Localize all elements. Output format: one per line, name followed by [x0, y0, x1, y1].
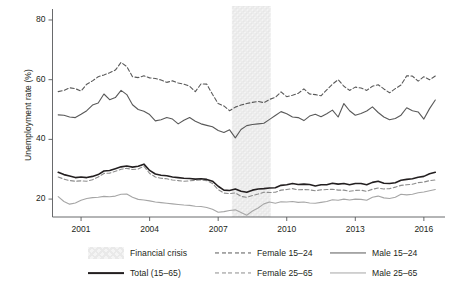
- legend-label: Female 25–65: [257, 268, 313, 278]
- plot-area: [0, 0, 449, 243]
- x-tick-label: 2013: [335, 224, 375, 234]
- y-tick-label: 80: [20, 14, 46, 24]
- y-axis-title: Unemployment rate (%): [23, 35, 33, 195]
- legend-row-top: Financial crisisFemale 15–24Male 15–24: [0, 243, 449, 263]
- legend-label: Female 15–24: [257, 248, 313, 258]
- legend-swatch: [88, 247, 124, 259]
- x-tick-label: 2001: [61, 224, 101, 234]
- y-tick-label: 20: [20, 193, 46, 203]
- legend-item[interactable]: Female 25–65: [215, 263, 313, 283]
- legend-label: Male 15–24: [372, 248, 417, 258]
- legend-item[interactable]: Female 15–24: [215, 243, 313, 263]
- x-tick-label: 2007: [198, 224, 238, 234]
- chart-figure: Unemployment rate (%) 20406080 200120042…: [0, 0, 449, 289]
- x-tick-label: 2010: [267, 224, 307, 234]
- crisis-band-swatch: [88, 247, 124, 259]
- line-swatch: [215, 252, 251, 253]
- line-swatch: [330, 272, 366, 273]
- legend-swatch: [215, 267, 251, 279]
- legend-label: Financial crisis: [130, 248, 187, 258]
- legend-swatch: [215, 247, 251, 259]
- x-tick-label: 2016: [404, 224, 444, 234]
- legend-item[interactable]: Financial crisis: [88, 243, 187, 263]
- chart-legend: Financial crisisFemale 15–24Male 15–24 T…: [0, 243, 449, 287]
- x-tick-label: 2004: [130, 224, 170, 234]
- legend-item[interactable]: Male 25–65: [330, 263, 417, 283]
- legend-label: Male 25–65: [372, 268, 417, 278]
- line-swatch: [88, 272, 124, 274]
- legend-item[interactable]: Total (15–65): [88, 263, 181, 283]
- legend-row-bottom: Total (15–65)Female 25–65Male 25–65: [0, 263, 449, 283]
- line-swatch: [215, 272, 251, 273]
- line-swatch: [330, 252, 366, 253]
- financial-crisis-band: [232, 6, 271, 217]
- legend-swatch: [88, 267, 124, 279]
- legend-label: Total (15–65): [130, 268, 181, 278]
- legend-item[interactable]: Male 15–24: [330, 243, 417, 263]
- y-tick-label: 60: [20, 74, 46, 84]
- legend-swatch: [330, 247, 366, 259]
- legend-swatch: [330, 267, 366, 279]
- y-tick-label: 40: [20, 133, 46, 143]
